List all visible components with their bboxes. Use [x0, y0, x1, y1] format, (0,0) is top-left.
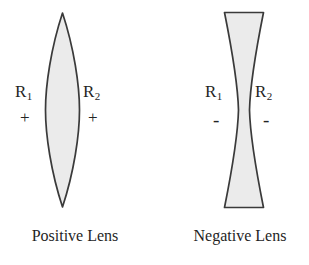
negative-lens-r2-symbol: R: [255, 82, 266, 101]
positive-lens-r1-subscript: 1: [26, 90, 32, 102]
positive-lens-r1-label: R1: [15, 83, 32, 102]
negative-lens-r2-label: R2: [255, 83, 272, 102]
positive-lens-r1-symbol: R: [15, 82, 26, 101]
negative-lens-r1-sign: -: [213, 110, 219, 129]
lens-sign-convention-figure: R1 + R2 + Positive Lens R1 - R2 - Negati…: [0, 0, 309, 265]
positive-lens-r2-symbol: R: [83, 82, 94, 101]
negative-lens-r2-subscript: 2: [266, 90, 272, 102]
positive-lens-r2-sign: +: [88, 109, 98, 126]
lens-shapes-svg: [0, 0, 309, 265]
biconcave-lens-icon: [225, 13, 264, 208]
positive-lens-r2-label: R2: [83, 83, 100, 102]
negative-lens-r1-label: R1: [205, 83, 222, 102]
positive-lens-r2-subscript: 2: [94, 90, 100, 102]
negative-lens-r1-symbol: R: [205, 82, 216, 101]
negative-lens-caption: Negative Lens: [175, 227, 305, 245]
positive-lens-caption: Positive Lens: [10, 227, 140, 245]
negative-lens-r1-subscript: 1: [216, 90, 222, 102]
biconvex-lens-icon: [46, 13, 80, 207]
positive-lens-r1-sign: +: [20, 109, 30, 126]
negative-lens-r2-sign: -: [263, 110, 269, 129]
